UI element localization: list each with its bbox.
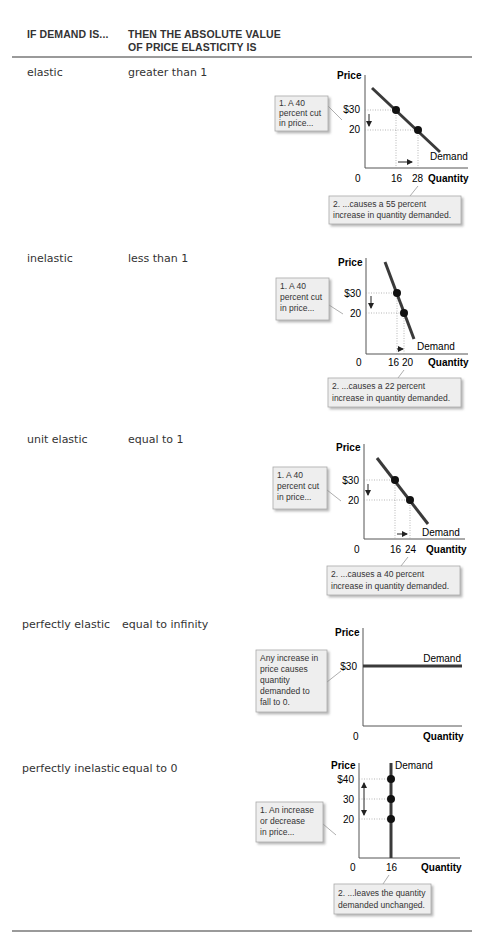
svg-text:16: 16 xyxy=(386,862,398,873)
chart-unit-elastic: Price $30 20 Demand 0 16 24 Quantity 1. … xyxy=(273,442,467,595)
svg-text:Demand: Demand xyxy=(417,341,455,352)
svg-text:$30: $30 xyxy=(344,288,361,299)
svg-text:$30: $30 xyxy=(342,475,359,486)
chart-elastic: Price $30 20 Demand 0 16 28 Quantity 1. … xyxy=(275,70,469,224)
demand-curve xyxy=(377,458,428,524)
svg-text:20: 20 xyxy=(350,308,362,319)
svg-text:Demand: Demand xyxy=(395,760,433,771)
y-axis-label: Price xyxy=(337,70,362,81)
svg-text:Price: Price xyxy=(338,257,363,268)
footer-divider xyxy=(12,930,472,932)
svg-text:24: 24 xyxy=(405,544,417,555)
svg-text:20: 20 xyxy=(348,495,360,506)
elasticity-diagrams: Price $30 20 Demand 0 16 28 Quantity 1. … xyxy=(0,0,486,943)
svg-text:Quantity: Quantity xyxy=(426,544,467,555)
svg-text:Quantity: Quantity xyxy=(428,357,469,368)
svg-text:$30: $30 xyxy=(343,104,360,115)
svg-text:20: 20 xyxy=(349,124,361,135)
svg-text:16: 16 xyxy=(391,173,403,184)
svg-text:20: 20 xyxy=(343,814,355,825)
svg-text:16: 16 xyxy=(390,544,402,555)
svg-text:Demand: Demand xyxy=(430,151,468,162)
demand-curve xyxy=(385,262,414,339)
svg-text:Demand: Demand xyxy=(423,653,461,664)
svg-text:Quantity: Quantity xyxy=(423,731,464,742)
svg-text:Quantity: Quantity xyxy=(421,862,462,873)
chart-perfectly-inelastic: Price $40 30 20 Demand 0 16 Quantity 1. … xyxy=(256,760,462,914)
point-28-20 xyxy=(414,126,422,134)
chart-inelastic: Price $30 20 Demand 0 16 20 Quantity 1. … xyxy=(276,257,469,407)
demand-curve xyxy=(372,88,440,152)
svg-text:0: 0 xyxy=(353,731,359,742)
svg-text:30: 30 xyxy=(343,794,355,805)
svg-text:16 20: 16 20 xyxy=(388,357,413,368)
svg-text:28: 28 xyxy=(412,173,424,184)
svg-text:0: 0 xyxy=(356,357,362,368)
svg-text:$40: $40 xyxy=(337,774,354,785)
svg-text:0: 0 xyxy=(350,862,356,873)
svg-text:Demand: Demand xyxy=(422,527,460,538)
svg-text:Price: Price xyxy=(336,442,361,453)
point-16-30 xyxy=(392,106,400,114)
svg-text:Price: Price xyxy=(331,760,356,771)
svg-text:Quantity: Quantity xyxy=(428,173,469,184)
svg-text:0: 0 xyxy=(354,544,360,555)
svg-text:$30: $30 xyxy=(340,661,357,672)
chart-perfectly-elastic: Price $30 Demand 0 Quantity Any increase… xyxy=(256,627,464,742)
svg-text:0: 0 xyxy=(355,173,361,184)
svg-text:Price: Price xyxy=(335,627,360,638)
